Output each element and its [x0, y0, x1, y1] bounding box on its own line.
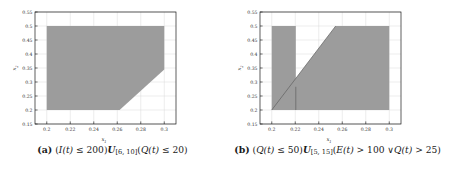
y-tick-label: 0.15 — [247, 122, 257, 127]
x-tick-label: 0.2 — [268, 127, 275, 132]
plot-a: 0.2 0.22 0.24 0.26 0.28 0.3 0.15 0.2 0.2… — [0, 0, 225, 145]
y-tick-label: 0.2 — [250, 108, 257, 113]
svg-text:x1: x1 — [326, 136, 331, 144]
y-tick-label: 0.45 — [22, 38, 32, 43]
x-tick-label: 0.26 — [112, 127, 122, 132]
caption-relation-3: > 25) — [412, 145, 441, 155]
x-axis-label-sub: 1 — [104, 140, 106, 144]
x-tick-labels-a: 0.2 0.22 0.24 0.26 0.28 0.3 — [43, 127, 168, 132]
until-operator-icon: U — [303, 144, 311, 155]
satisfaction-region-b — [272, 26, 390, 110]
x-tick-label: 0.24 — [314, 127, 324, 132]
y-tick-labels-b: 0.15 0.2 0.25 0.3 0.35 0.4 0.45 0.5 0.55 — [247, 10, 257, 127]
caption-relation-2: > 100 — [354, 145, 388, 155]
caption-arg-t-2: (t) — [148, 145, 159, 155]
x-tick-label: 0.22 — [65, 127, 75, 132]
caption-arg-t-2: (t) — [343, 145, 354, 155]
x-tick-label: 0.24 — [89, 127, 99, 132]
x-tick-label: 0.28 — [136, 127, 146, 132]
y-axis-label-b: x2 — [236, 65, 244, 71]
x-tick-label: 0.3 — [386, 127, 393, 132]
until-interval: [5, 15] — [311, 148, 333, 156]
svg-text:x1: x1 — [101, 136, 106, 144]
caption-body-a: (I(t) ≤ 200)U[6, 10](Q(t) ≤ 20) — [55, 145, 187, 155]
y-axis-label-sub: 2 — [15, 65, 19, 69]
y-tick-label: 0.55 — [247, 10, 257, 15]
x-tick-labels-b: 0.2 0.22 0.24 0.26 0.28 0.3 — [268, 127, 393, 132]
y-tick-labels-a: 0.15 0.2 0.25 0.3 0.35 0.4 0.45 0.5 0.55 — [22, 10, 32, 127]
svg-text:x2: x2 — [11, 65, 19, 71]
caption-relation-2: ≤ 20) — [159, 145, 188, 155]
caption-tag-b: (b) — [234, 144, 249, 155]
x-axis-label-b: x1 — [326, 136, 331, 144]
x-tick-label: 0.28 — [361, 127, 371, 132]
x-axis-label-sub: 1 — [329, 140, 331, 144]
y-tick-label: 0.4 — [250, 52, 257, 57]
caption-relation-1: ≤ 50) — [274, 145, 303, 155]
x-tick-label: 0.26 — [337, 127, 347, 132]
y-tick-label: 0.5 — [25, 24, 32, 29]
plot-b-svg: 0.2 0.22 0.24 0.26 0.28 0.3 0.15 0.2 0.2… — [225, 0, 450, 145]
y-tick-label: 0.25 — [22, 94, 32, 99]
caption-arg-t: (t) — [62, 145, 73, 155]
subfigure-a: 0.2 0.22 0.24 0.26 0.28 0.3 0.15 0.2 0.2… — [0, 0, 225, 175]
y-tick-label: 0.3 — [25, 80, 32, 85]
x-tick-label: 0.22 — [290, 127, 300, 132]
caption-body-b: (Q(t) ≤ 50)U[5, 15](E(t) > 100 ∨Q(t) > 2… — [253, 145, 441, 155]
y-tick-label: 0.55 — [22, 10, 32, 15]
y-ticks-b — [260, 12, 263, 124]
until-interval: [6, 10] — [115, 148, 137, 156]
y-axis-label-sub: 2 — [240, 65, 244, 69]
x-axis-label-a: x1 — [101, 136, 106, 144]
plot-b: 0.2 0.22 0.24 0.26 0.28 0.3 0.15 0.2 0.2… — [225, 0, 450, 145]
subfigure-b: 0.2 0.22 0.24 0.26 0.28 0.3 0.15 0.2 0.2… — [225, 0, 450, 175]
caption-arg-t: (t) — [264, 145, 275, 155]
caption-b: (b) (Q(t) ≤ 50)U[5, 15](E(t) > 100 ∨Q(t)… — [225, 144, 450, 156]
caption-arg-t-3: (t) — [401, 145, 412, 155]
y-tick-label: 0.3 — [250, 80, 257, 85]
y-tick-label: 0.35 — [22, 66, 32, 71]
x-ticks-a — [47, 121, 165, 124]
caption-tag-a: (a) — [37, 144, 52, 155]
caption-var-Q: Q — [256, 145, 263, 155]
figure-row: 0.2 0.22 0.24 0.26 0.28 0.3 0.15 0.2 0.2… — [0, 0, 450, 175]
y-tick-label: 0.4 — [25, 52, 32, 57]
x-tick-label: 0.3 — [161, 127, 168, 132]
y-tick-label: 0.2 — [25, 108, 32, 113]
y-tick-label: 0.15 — [22, 122, 32, 127]
y-tick-label: 0.45 — [247, 38, 257, 43]
svg-text:x2: x2 — [236, 65, 244, 71]
satisfaction-region-a — [47, 26, 165, 110]
x-ticks-b — [272, 121, 390, 124]
y-tick-label: 0.5 — [250, 24, 257, 29]
caption-relation-1: ≤ 200) — [73, 145, 107, 155]
x-tick-label: 0.2 — [43, 127, 50, 132]
caption-a: (a) (I(t) ≤ 200)U[6, 10](Q(t) ≤ 20) — [0, 144, 225, 156]
y-ticks-a — [35, 12, 38, 124]
y-tick-label: 0.25 — [247, 94, 257, 99]
y-axis-label-a: x2 — [11, 65, 19, 71]
y-tick-label: 0.35 — [247, 66, 257, 71]
caption-var-E: E — [336, 145, 343, 155]
plot-a-svg: 0.2 0.22 0.24 0.26 0.28 0.3 0.15 0.2 0.2… — [0, 0, 225, 145]
